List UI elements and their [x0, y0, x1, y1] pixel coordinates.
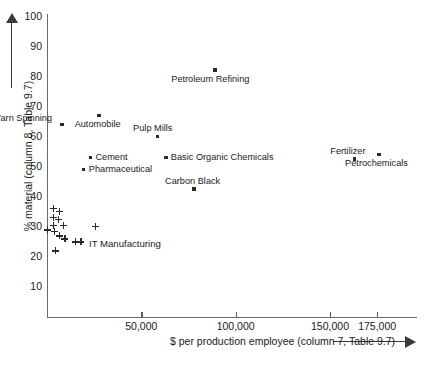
- data-point-marker: [377, 153, 380, 156]
- data-point-label: Carbon Black: [165, 176, 220, 186]
- x-tick-mark: [330, 312, 331, 317]
- x-tick-label: 175,000: [347, 321, 407, 332]
- data-point-label: Basic Organic Chemicals: [171, 152, 274, 162]
- data-point-marker: [164, 156, 167, 159]
- y-tick-label: 70: [16, 101, 42, 112]
- data-point-marker: [192, 187, 195, 190]
- x-tick-mark: [236, 312, 237, 317]
- data-point-label: Fertilizer: [330, 146, 365, 156]
- data-point-label: Automobile: [75, 119, 121, 129]
- x-tick-label: 100,000: [206, 321, 266, 332]
- x-tick-mark: [377, 312, 378, 317]
- data-point-marker: [156, 135, 159, 138]
- y-tick-label: 10: [16, 281, 42, 292]
- x-axis-arrow-icon: [405, 336, 416, 348]
- data-point-marker-plus: [61, 235, 68, 242]
- data-point-label: Cement: [95, 152, 127, 162]
- y-axis-title: % material (column 8, Table 9.7): [22, 66, 34, 246]
- cluster-label-it-manufacturing: IT Manufacturing: [89, 238, 161, 249]
- data-point-marker-plus: [92, 223, 99, 230]
- y-tick-label: 50: [16, 161, 42, 172]
- y-tick-label: 30: [16, 221, 42, 232]
- data-point-marker: [213, 68, 216, 71]
- data-point-marker-plus: [44, 226, 51, 233]
- y-tick-label: 40: [16, 191, 42, 202]
- data-point-label: Pulp Mills: [133, 123, 172, 133]
- y-tick-label: 80: [16, 71, 42, 82]
- x-tick-mark: [141, 312, 142, 317]
- y-axis-line: [47, 14, 48, 318]
- data-point-label: Yarn Spinning: [0, 113, 52, 123]
- data-point-marker: [82, 168, 85, 171]
- data-point-marker: [97, 114, 100, 117]
- y-axis-arrow-shaft: [11, 22, 12, 88]
- y-tick-label: 100: [16, 11, 42, 22]
- scatter-plot-figure: % material (column 8, Table 9.7) $ per p…: [0, 0, 427, 366]
- data-point-label: Pharmaceutical: [89, 164, 152, 174]
- data-point-marker-plus: [52, 247, 59, 254]
- x-axis-line: [47, 317, 417, 318]
- data-point-label: Petrochemicals: [345, 158, 408, 168]
- data-point-marker: [60, 123, 63, 126]
- data-point-marker-plus: [60, 222, 67, 229]
- y-tick-label: 60: [16, 131, 42, 142]
- x-axis-title: $ per production employee (column 7, Tab…: [170, 335, 395, 347]
- y-tick-label: 20: [16, 251, 42, 262]
- data-point-label: Petroleum Refining: [171, 74, 249, 84]
- x-tick-label: 50,000: [111, 321, 171, 332]
- data-point-marker-plus: [77, 238, 84, 245]
- data-point-marker: [89, 156, 92, 159]
- y-tick-label: 90: [16, 41, 42, 52]
